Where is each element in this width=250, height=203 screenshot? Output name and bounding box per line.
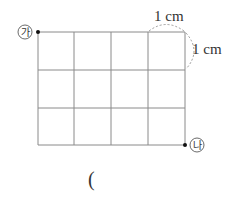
point-a-label: 가	[19, 24, 31, 39]
point-a-dot	[36, 30, 40, 34]
answer-paren: (	[88, 168, 95, 191]
point-b-dot	[183, 143, 187, 147]
point-b-label: 나	[191, 137, 203, 152]
unit-arc-top	[149, 25, 184, 32]
unit-label-right: 1 cm	[192, 41, 222, 58]
unit-label-top: 1 cm	[154, 8, 184, 25]
grid-diagram	[0, 0, 250, 203]
grid-lines	[38, 32, 185, 145]
